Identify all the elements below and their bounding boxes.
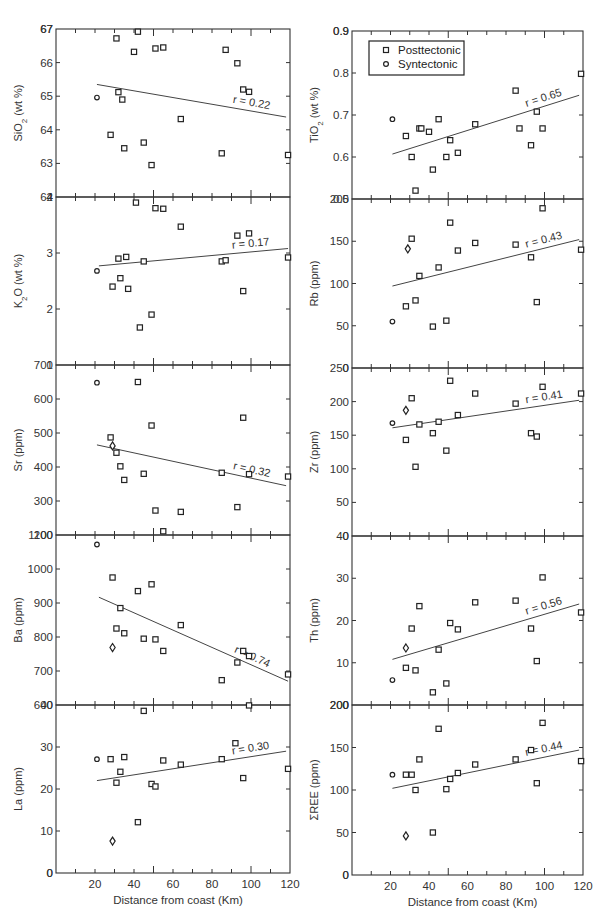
posttectonic-point bbox=[540, 720, 545, 725]
posttectonic-point bbox=[534, 299, 539, 304]
posttectonic-point bbox=[137, 325, 142, 330]
y-tick-label-top: 200 bbox=[330, 699, 349, 711]
y-tick-label: 100 bbox=[330, 784, 349, 796]
posttectonic-point bbox=[413, 188, 418, 193]
posttectonic-point bbox=[403, 772, 408, 777]
posttectonic-point bbox=[455, 150, 460, 155]
posttectonic-point bbox=[153, 206, 158, 211]
posttectonic-point bbox=[517, 126, 522, 131]
posttectonic-point bbox=[246, 472, 251, 477]
x-tick-label: 60 bbox=[167, 878, 180, 890]
posttectonic-point bbox=[578, 610, 583, 615]
posttectonic-point bbox=[534, 109, 539, 114]
y-tick-label-top: 200 bbox=[330, 193, 349, 205]
x-tick-label: 20 bbox=[384, 880, 397, 892]
posttectonic-point bbox=[233, 741, 238, 746]
posttectonic-point bbox=[153, 637, 158, 642]
y-tick-label: 100 bbox=[330, 463, 349, 475]
posttectonic-point bbox=[135, 589, 140, 594]
posttectonic-point bbox=[219, 757, 224, 762]
legend-circle-marker bbox=[384, 62, 389, 67]
posttectonic-point bbox=[578, 391, 583, 396]
posttectonic-point bbox=[235, 505, 240, 510]
posttectonic-point bbox=[444, 448, 449, 453]
x-tick-label: 120 bbox=[573, 880, 592, 892]
posttectonic-point bbox=[448, 776, 453, 781]
posttectonic-point bbox=[178, 224, 183, 229]
posttectonic-point bbox=[455, 627, 460, 632]
posttectonic-point bbox=[161, 206, 166, 211]
posttectonic-point bbox=[534, 781, 539, 786]
posttectonic-point bbox=[116, 256, 121, 261]
plot-frame bbox=[56, 535, 290, 705]
posttectonic-point bbox=[403, 665, 408, 670]
legend-label-posttectonic: Posttectonic bbox=[398, 44, 461, 56]
y-tick-label: 3 bbox=[47, 247, 53, 259]
posttectonic-point bbox=[285, 255, 290, 260]
posttectonic-point bbox=[436, 265, 441, 270]
y-tick-label: 100 bbox=[330, 278, 349, 290]
posttectonic-point bbox=[448, 620, 453, 625]
syntectonic-point bbox=[390, 117, 395, 122]
diamond-point bbox=[405, 245, 410, 253]
posttectonic-point bbox=[114, 450, 119, 455]
posttectonic-point bbox=[473, 391, 478, 396]
posttectonic-point bbox=[161, 529, 166, 534]
posttectonic-point bbox=[114, 626, 119, 631]
posttectonic-point bbox=[114, 780, 119, 785]
y-axis-label: Th (ppm) bbox=[308, 598, 320, 643]
x-axis-label: Distance from coast (Km) bbox=[408, 896, 538, 908]
posttectonic-point bbox=[444, 154, 449, 159]
trend-line bbox=[99, 597, 288, 681]
posttectonic-point bbox=[534, 658, 539, 663]
posttectonic-point bbox=[153, 784, 158, 789]
posttectonic-point bbox=[540, 206, 545, 211]
y-tick-label: 400 bbox=[34, 461, 53, 473]
posttectonic-point bbox=[135, 29, 140, 34]
posttectonic-point bbox=[417, 604, 422, 609]
posttectonic-point bbox=[528, 626, 533, 631]
y-tick-label: 150 bbox=[330, 235, 349, 247]
panel-left-4: 0102030400La (ppm)r = 0.3020406080100120… bbox=[12, 699, 300, 906]
posttectonic-point bbox=[141, 708, 146, 713]
posttectonic-point bbox=[235, 233, 240, 238]
diamond-point bbox=[110, 644, 115, 652]
x-tick-label: 40 bbox=[423, 880, 436, 892]
panel-right-2: 501001502002500Zr (ppm)r = 0.41 bbox=[308, 362, 584, 542]
correlation-label: r = 0.41 bbox=[524, 388, 563, 405]
posttectonic-point bbox=[241, 648, 246, 653]
y-tick-label: 63 bbox=[40, 157, 53, 169]
y-axis-label: K2O (wt %) bbox=[12, 254, 29, 309]
diamond-point bbox=[110, 837, 115, 845]
plot-frame bbox=[352, 536, 583, 705]
posttectonic-point bbox=[118, 606, 123, 611]
posttectonic-point bbox=[108, 757, 113, 762]
y-axis-label: Rb (ppm) bbox=[308, 261, 320, 307]
posttectonic-point bbox=[534, 434, 539, 439]
correlation-label: r = 0.65 bbox=[524, 86, 563, 109]
y-tick-label-top: 40 bbox=[336, 530, 349, 542]
y-axis-label: Sr (ppm) bbox=[12, 429, 24, 472]
y-tick-label: 64 bbox=[40, 124, 53, 136]
posttectonic-point bbox=[223, 258, 228, 263]
syntectonic-point bbox=[95, 542, 100, 547]
posttectonic-point bbox=[540, 384, 545, 389]
posttectonic-point bbox=[153, 508, 158, 513]
posttectonic-point bbox=[241, 415, 246, 420]
posttectonic-point bbox=[219, 151, 224, 156]
posttectonic-point bbox=[141, 259, 146, 264]
syntectonic-point bbox=[95, 757, 100, 762]
panel-right-3: 102030400Th (ppm)r = 0.56 bbox=[308, 530, 584, 711]
legend-label-syntectonic: Syntectonic bbox=[398, 58, 458, 70]
posttectonic-point bbox=[403, 133, 408, 138]
posttectonic-point bbox=[528, 255, 533, 260]
syntectonic-point bbox=[390, 319, 395, 324]
legend-square-marker bbox=[384, 48, 389, 53]
posttectonic-point bbox=[120, 97, 125, 102]
posttectonic-point bbox=[417, 422, 422, 427]
y-axis-label: La (ppm) bbox=[12, 767, 24, 811]
correlation-label: r = 0.56 bbox=[524, 594, 563, 616]
trend-line bbox=[392, 95, 579, 154]
posttectonic-point bbox=[135, 379, 140, 384]
posttectonic-point bbox=[426, 129, 431, 134]
